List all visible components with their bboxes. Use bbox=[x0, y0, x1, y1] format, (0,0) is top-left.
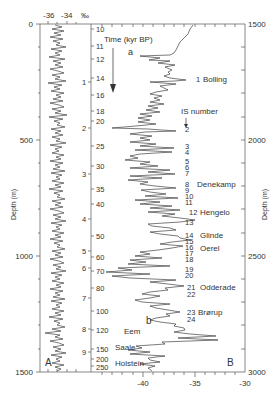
svg-text:IS number: IS number bbox=[181, 107, 218, 116]
svg-text:120: 120 bbox=[96, 326, 109, 335]
svg-text:‰: ‰ bbox=[81, 11, 89, 20]
svg-text:Bolling: Bolling bbox=[203, 75, 227, 84]
svg-text:Time (kyr BP): Time (kyr BP) bbox=[104, 35, 153, 44]
svg-text:13: 13 bbox=[185, 218, 193, 227]
svg-text:1: 1 bbox=[82, 78, 86, 87]
svg-text:60: 60 bbox=[96, 253, 104, 262]
svg-text:Depth (m): Depth (m) bbox=[261, 189, 269, 220]
svg-text:11: 11 bbox=[96, 42, 104, 51]
svg-text:-35: -35 bbox=[189, 379, 201, 388]
svg-text:3000: 3000 bbox=[248, 368, 266, 377]
svg-text:20: 20 bbox=[96, 117, 104, 126]
svg-text:22: 22 bbox=[187, 290, 195, 299]
svg-text:b: b bbox=[146, 315, 152, 326]
svg-text:2: 2 bbox=[82, 124, 86, 133]
panel-a bbox=[36, 21, 91, 372]
svg-text:-34: -34 bbox=[61, 11, 73, 20]
down-arrow-icon bbox=[110, 84, 116, 93]
svg-text:20: 20 bbox=[185, 271, 193, 280]
svg-text:Odderade: Odderade bbox=[200, 283, 236, 292]
svg-text:1500: 1500 bbox=[248, 20, 266, 29]
svg-text:7: 7 bbox=[185, 169, 189, 178]
panel-a-trace bbox=[45, 25, 67, 371]
svg-text:16: 16 bbox=[96, 91, 104, 100]
svg-text:3: 3 bbox=[82, 170, 86, 179]
svg-text:B: B bbox=[227, 357, 234, 368]
svg-text:-30: -30 bbox=[239, 379, 251, 388]
svg-text:40: 40 bbox=[96, 200, 104, 209]
svg-text:9: 9 bbox=[82, 348, 86, 357]
ice-core-isotope-figure: -36 -34 ‰ 0 500 1000 1500 Depth (m) A 10… bbox=[0, 0, 277, 396]
panel-b-trace bbox=[106, 25, 218, 371]
svg-text:2000: 2000 bbox=[248, 136, 266, 145]
svg-text:500: 500 bbox=[20, 136, 34, 145]
svg-text:50: 50 bbox=[96, 232, 104, 241]
svg-text:2500: 2500 bbox=[248, 252, 266, 261]
svg-text:70: 70 bbox=[96, 267, 104, 276]
svg-text:Hengelo: Hengelo bbox=[200, 208, 230, 217]
svg-text:11: 11 bbox=[185, 198, 193, 207]
svg-text:25: 25 bbox=[96, 142, 104, 151]
svg-text:a: a bbox=[128, 47, 133, 57]
svg-text:Holstein: Holstein bbox=[115, 359, 144, 368]
svg-text:4: 4 bbox=[82, 215, 86, 224]
panel-a-axis-labels: -36 -34 ‰ 0 500 1000 1500 Depth (m) A bbox=[10, 11, 89, 377]
svg-text:4: 4 bbox=[185, 148, 189, 157]
svg-text:8: 8 bbox=[82, 325, 86, 334]
svg-text:-40: -40 bbox=[137, 379, 149, 388]
svg-text:5: 5 bbox=[82, 247, 86, 256]
svg-text:Denekamp: Denekamp bbox=[197, 180, 236, 189]
svg-text:14: 14 bbox=[96, 74, 104, 83]
time-axis bbox=[88, 24, 94, 372]
svg-text:-36: -36 bbox=[43, 11, 55, 20]
svg-text:A: A bbox=[45, 357, 52, 368]
svg-text:80: 80 bbox=[96, 284, 104, 293]
svg-text:Oerel: Oerel bbox=[200, 244, 220, 253]
svg-text:1000: 1000 bbox=[15, 252, 33, 261]
svg-text:6: 6 bbox=[82, 264, 86, 273]
time-axis-labels: 10 11 12 14 16 18 20 25 30 35 40 50 60 7… bbox=[82, 25, 109, 372]
svg-text:Glinde: Glinde bbox=[200, 231, 224, 240]
svg-text:1: 1 bbox=[196, 75, 200, 84]
annotations: a b IS number 1 Bolling 2 3 4 5 6 7 8 De… bbox=[115, 47, 236, 368]
svg-text:Eem: Eem bbox=[124, 327, 141, 336]
svg-text:Brørup: Brørup bbox=[198, 308, 223, 317]
svg-text:Depth (m): Depth (m) bbox=[10, 189, 18, 220]
time-label: Time (kyr BP) bbox=[104, 35, 153, 93]
svg-text:30: 30 bbox=[96, 162, 104, 171]
svg-text:18: 18 bbox=[96, 107, 104, 116]
svg-text:Saale: Saale bbox=[115, 343, 136, 352]
svg-text:1500: 1500 bbox=[15, 368, 33, 377]
svg-text:7: 7 bbox=[82, 294, 86, 303]
svg-text:0: 0 bbox=[29, 20, 34, 29]
svg-text:2: 2 bbox=[185, 125, 189, 134]
svg-text:250: 250 bbox=[96, 363, 109, 372]
svg-text:150: 150 bbox=[96, 345, 109, 354]
svg-text:10: 10 bbox=[96, 25, 104, 34]
svg-text:24: 24 bbox=[187, 315, 195, 324]
svg-text:12: 12 bbox=[189, 208, 197, 217]
svg-text:100: 100 bbox=[96, 307, 109, 316]
svg-text:18: 18 bbox=[185, 255, 193, 264]
svg-text:12: 12 bbox=[96, 55, 104, 64]
svg-text:35: 35 bbox=[96, 185, 104, 194]
